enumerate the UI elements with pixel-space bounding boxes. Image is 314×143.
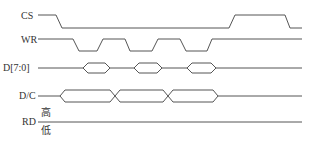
wr-label: WR — [21, 35, 37, 45]
dc-label: D/C — [19, 91, 36, 101]
cs-label: CS — [21, 11, 33, 21]
dc-bus-eye — [115, 90, 168, 102]
d70-bus-eye — [83, 63, 110, 73]
rd-low-level-label: 低 — [41, 126, 51, 136]
d70-label: D[7:0] — [3, 63, 30, 73]
d70-bus-eye — [134, 63, 162, 73]
timing-diagram: CS WR D[7:0] D/C RD 高 低 — [0, 0, 314, 143]
wr-waveform — [38, 39, 302, 51]
rd-high-level-label: 高 — [41, 108, 51, 118]
cs-waveform — [38, 15, 302, 28]
d70-bus-eye — [187, 63, 216, 73]
rd-label: RD — [22, 117, 36, 127]
dc-bus-eye — [168, 90, 218, 102]
waveforms-canvas — [0, 0, 314, 143]
dc-bus-eye — [60, 90, 115, 102]
